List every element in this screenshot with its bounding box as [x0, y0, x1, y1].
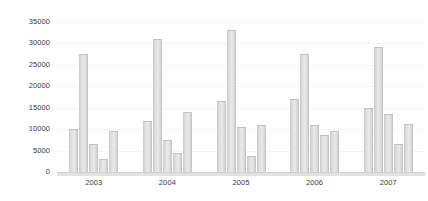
y-axis-tick-label: 5000	[0, 147, 50, 155]
bar[interactable]	[227, 30, 236, 172]
bar[interactable]	[257, 125, 266, 172]
bar-cluster	[143, 14, 192, 172]
plot-area	[57, 14, 425, 172]
y-axis: 05000100001500020000250003000035000	[0, 0, 54, 201]
bar[interactable]	[109, 131, 118, 172]
bar-cluster	[290, 14, 339, 172]
bar[interactable]	[404, 124, 413, 172]
axis-baseline	[57, 172, 425, 176]
bar-cluster	[364, 14, 413, 172]
bar[interactable]	[99, 159, 108, 172]
x-axis-tick-label-2005: 2005	[204, 178, 278, 187]
bar[interactable]	[310, 125, 319, 172]
bar[interactable]	[384, 114, 393, 172]
bar[interactable]	[364, 108, 373, 173]
x-axis-tick-label-2007: 2007	[351, 178, 425, 187]
bar-cluster	[69, 14, 118, 172]
bar-group-2006	[290, 14, 339, 172]
bar[interactable]	[173, 153, 182, 172]
bar[interactable]	[394, 144, 403, 172]
bar-group-2005	[217, 14, 266, 172]
y-axis-tick-label: 20000	[0, 82, 50, 90]
bar[interactable]	[79, 54, 88, 172]
x-axis-tick-label-2006: 2006	[278, 178, 352, 187]
bar-group-2007	[364, 14, 413, 172]
bar[interactable]	[290, 99, 299, 172]
bar[interactable]	[320, 135, 329, 172]
bar[interactable]	[89, 144, 98, 172]
bar-chart: 05000100001500020000250003000035000 2003…	[0, 0, 428, 201]
bar[interactable]	[217, 101, 226, 172]
bar[interactable]	[143, 121, 152, 172]
bar[interactable]	[153, 39, 162, 172]
bar[interactable]	[163, 140, 172, 172]
bar[interactable]	[247, 156, 256, 172]
bar[interactable]	[374, 47, 383, 172]
bar-group-2004	[143, 14, 192, 172]
y-axis-tick-label: 15000	[0, 104, 50, 112]
bar[interactable]	[330, 131, 339, 172]
bar[interactable]	[237, 127, 246, 172]
bar[interactable]	[69, 129, 78, 172]
y-axis-tick-label: 10000	[0, 125, 50, 133]
bar-cluster	[217, 14, 266, 172]
y-axis-tick-label: 35000	[0, 18, 50, 26]
x-axis-tick-label-2003: 2003	[57, 178, 131, 187]
bar[interactable]	[300, 54, 309, 172]
y-axis-tick-label: 0	[0, 168, 50, 176]
y-axis-tick-label: 25000	[0, 61, 50, 69]
bar[interactable]	[183, 112, 192, 172]
y-axis-tick-label: 30000	[0, 39, 50, 47]
x-axis-tick-label-2004: 2004	[131, 178, 205, 187]
bar-group-2003	[69, 14, 118, 172]
